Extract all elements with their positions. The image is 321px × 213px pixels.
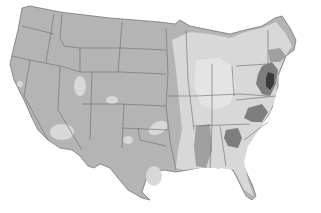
midwest-light-area: [194, 58, 236, 110]
arizona-light-patch: [50, 124, 74, 140]
california-light-patch: [17, 81, 23, 87]
us-choropleth-map: [0, 0, 321, 213]
colorado-light-patch: [106, 96, 118, 104]
texas-light-patch: [146, 166, 162, 186]
new-mexico-light-patch: [123, 136, 133, 144]
utah-light-patch: [74, 76, 86, 96]
